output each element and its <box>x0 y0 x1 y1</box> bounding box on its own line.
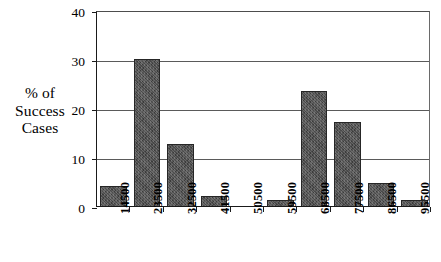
y-axis-tick-label: 40 <box>72 6 86 20</box>
bar-slot <box>401 12 428 206</box>
y-axis-title-line-3: Cases <box>0 119 80 137</box>
x-axis-tick-label-text: 68500 <box>319 182 332 214</box>
bar-chart-figure: % of Success Cases 010203040 14500235003… <box>0 0 441 262</box>
x-axis-tick-label-text: 59500 <box>286 182 299 214</box>
x-axis-tick-label-text: 77500 <box>353 182 366 214</box>
x-axis-tick-label: 32500 <box>173 214 187 258</box>
bar-series <box>97 12 429 206</box>
x-axis-tick-label-text: 95500 <box>419 182 432 214</box>
plot-area: 010203040 <box>96 11 430 207</box>
y-axis-title-line-2: Success <box>0 102 80 120</box>
bar-slot <box>368 12 395 206</box>
y-axis-title-line-1: % of <box>0 84 80 102</box>
x-axis-tick-label: 23500 <box>139 214 153 258</box>
bar-slot <box>234 12 261 206</box>
y-axis-tick-label: 30 <box>72 55 86 69</box>
x-axis-tick-label-text: 23500 <box>152 182 165 214</box>
y-axis-tick-label: 20 <box>72 104 86 118</box>
x-axis-tick-label: 77500 <box>340 214 354 258</box>
x-axis-tick-label: 86500 <box>373 214 387 258</box>
bar-slot <box>167 12 194 206</box>
y-axis-tick-label: 0 <box>78 202 85 216</box>
x-axis-tick-label-text: 86500 <box>386 182 399 214</box>
x-axis-tick-label: 41500 <box>206 214 220 258</box>
x-axis-tick-label-text: 41500 <box>219 182 232 214</box>
bar-slot <box>301 12 328 206</box>
x-axis-tick-label: 59500 <box>273 214 287 258</box>
x-axis-tick-label-text: 32500 <box>186 182 199 214</box>
bar-slot <box>134 12 161 206</box>
y-axis-tick: 0 <box>92 208 97 209</box>
x-axis-tick-label: 68500 <box>306 214 320 258</box>
bar-slot <box>201 12 228 206</box>
y-axis-title: % of Success Cases <box>0 84 80 137</box>
x-axis-tick-label: 14500 <box>106 214 120 258</box>
x-axis-tick-label: 95500 <box>406 214 420 258</box>
x-axis-tick-label: 50500 <box>239 214 253 258</box>
bar-slot <box>267 12 294 206</box>
bar-slot <box>334 12 361 206</box>
x-axis-tick-label-text: 50500 <box>252 182 265 214</box>
bar-slot <box>100 12 127 206</box>
y-axis-tick-label: 10 <box>72 153 86 167</box>
x-axis-tick-label-text: 14500 <box>119 182 132 214</box>
